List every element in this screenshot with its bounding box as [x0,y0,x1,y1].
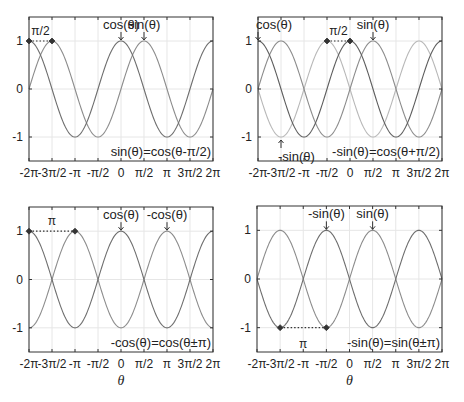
diamond-marker-icon [347,38,353,44]
label-sin: sin(θ) [357,17,390,32]
x-tick-label: π [163,357,171,371]
label-neg-cos: -cos(θ) [147,207,187,222]
x-tick-label: -2π [249,166,268,180]
label-shift: π/2 [31,24,50,38]
x-tick-label: -π [69,166,81,180]
identity-label: -sin(θ)=sin(θ±π) [347,335,440,350]
panel-top-left: -2π-3π/2-π-π/20π/2π3π/22π 10-1 cos(θ) si… [12,17,220,180]
panel-bottom-right: -2π-3π/2-π-π/20π/2π3π/22π 10-1 θ -sin(θ)… [240,206,449,388]
x-tick-label: 3π/2 [407,166,432,180]
x-tick-label: -π [298,166,310,180]
y-tick-label: 0 [16,82,23,96]
x-tick-label: π/2 [363,357,382,371]
x-axis-label: θ [118,373,125,388]
x-axis-label: θ [346,373,353,388]
y-tick-label: 1 [244,223,251,237]
y-tick-label: 1 [16,34,23,48]
x-tick-label: 2π [206,166,221,180]
x-tick-label: 3π/2 [406,357,431,371]
x-tick-label: -3π/2 [267,166,296,180]
label-sin: sin(θ) [128,17,161,32]
x-tick-labels: -2π-3π/2-π-π/20π/2π3π/22π [20,166,221,180]
x-tick-label: 0 [118,357,125,371]
y-tick-label: 0 [16,273,23,287]
x-tick-label: -π [69,357,81,371]
y-tick-label: -1 [241,130,252,144]
x-tick-label: -π [297,357,309,371]
label-neg-sin: -sin(θ) [278,149,315,164]
x-tick-label: -π/2 [87,166,110,180]
x-tick-label: 2π [206,357,221,371]
diamond-marker-icon [72,228,78,234]
identity-label: -cos(θ)=cos(θ±π) [111,335,211,350]
x-tick-labels: -2π-3π/2-π-π/20π/2π3π/22π [20,357,221,371]
label-cos: cos(θ) [256,17,292,32]
x-tick-label: π/2 [364,166,383,180]
y-tick-labels: 10-1 [12,224,23,335]
x-tick-label: 2π [435,357,450,371]
x-tick-label: π [392,166,400,180]
x-tick-label: π [392,357,400,371]
x-tick-label: π [163,166,171,180]
y-tick-label: 1 [245,34,252,48]
y-tick-labels: 10-1 [12,34,23,144]
y-tick-labels: 10-1 [241,34,252,144]
y-tick-label: 1 [16,224,23,238]
x-tick-label: -π/2 [315,357,338,371]
diamond-marker-icon [26,228,32,234]
annotations: cos(θ) sin(θ) π/2 sin(θ)=cos(θ-π/2) [26,17,211,159]
label-sin: sin(θ) [356,206,389,221]
x-tick-label: -π/2 [316,166,339,180]
x-tick-label: 0 [347,166,354,180]
x-tick-labels: -2π-3π/2-π-π/20π/2π3π/22π [249,166,450,180]
diamond-marker-icon [324,38,330,44]
diamond-marker-icon [277,325,283,331]
diamond-marker-icon [26,38,32,44]
panel-bottom-left: -2π-3π/2-π-π/20π/2π3π/22π 10-1 θ cos(θ) … [12,207,220,388]
x-tick-label: π/2 [135,166,154,180]
annotations: cos(θ) -cos(θ) π -cos(θ)=cos(θ±π) [26,207,211,350]
y-tick-label: 0 [245,82,252,96]
label-cos: cos(θ) [103,207,139,222]
y-tick-label: -1 [12,321,23,335]
identity-label: sin(θ)=cos(θ-π/2) [111,144,211,159]
x-tick-label: 2π [435,166,450,180]
y-tick-label: -1 [12,130,23,144]
x-tick-label: 3π/2 [178,166,203,180]
x-tick-label: -2π [20,166,39,180]
x-tick-labels: -2π-3π/2-π-π/20π/2π3π/22π [248,357,450,371]
x-tick-label: 0 [118,166,125,180]
figure: -2π-3π/2-π-π/20π/2π3π/22π 10-1 cos(θ) si… [0,0,464,402]
label-shift: π [48,214,56,228]
diamond-marker-icon [323,325,329,331]
y-tick-label: 0 [244,272,251,286]
x-tick-label: π/2 [135,357,154,371]
diamond-marker-icon [49,38,55,44]
x-tick-label: -3π/2 [266,357,295,371]
label-shift: π [299,337,307,351]
label-shift: π/2 [329,24,348,38]
y-tick-label: -1 [240,321,251,335]
x-tick-label: 0 [346,357,353,371]
identity-label: -sin(θ)=cos(θ+π/2) [332,144,440,159]
x-tick-label: -3π/2 [38,357,67,371]
annotations: cos(θ) sin(θ) -sin(θ) π/2 -sin(θ)=cos(θ+… [256,17,441,164]
panel-top-right: -2π-3π/2-π-π/20π/2π3π/22π 10-1 cos(θ) si… [241,17,449,180]
x-tick-label: -3π/2 [38,166,67,180]
label-neg-sin: -sin(θ) [308,206,345,221]
x-tick-label: -2π [20,357,39,371]
y-tick-labels: 10-1 [240,223,251,334]
x-tick-label: -2π [248,357,267,371]
x-tick-label: -π/2 [87,357,110,371]
x-tick-label: 3π/2 [178,357,203,371]
